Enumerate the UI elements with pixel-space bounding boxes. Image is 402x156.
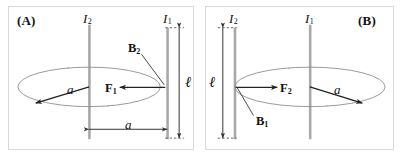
panel-b-label-force-f2: F2 — [280, 82, 292, 96]
panel-b-current-i1-subscript: 1 — [309, 17, 313, 26]
wire-current-i1 — [166, 28, 169, 139]
wire-current-i2 — [88, 25, 91, 139]
panel-b-label-current-i2: I2 — [229, 12, 238, 26]
wire-current-i1 — [309, 25, 312, 139]
panel-b-force-f2-symbol: F — [280, 81, 288, 95]
panel-a-field-b2-subscript: 2 — [136, 47, 140, 56]
panel-a-current-i2-subscript: 2 — [87, 17, 91, 26]
loop-marker-bottom — [326, 105, 328, 107]
loop-marker-bottom — [107, 105, 109, 107]
panel-b-tag: (B) — [358, 14, 376, 27]
panel-a-tag: (A) — [17, 14, 36, 27]
panel-a-label-force-f1: F1 — [105, 82, 117, 96]
panel-b: (B) I2 I1 F2 B1 a ℓ — [205, 6, 394, 150]
panel-a-label-separation-a: a — [125, 118, 132, 131]
panel-b-label-field-b1: B1 — [256, 115, 268, 129]
panel-a-label-length-l: ℓ — [185, 75, 191, 90]
panel-a-graphics — [9, 7, 193, 149]
field-arrow-b1 — [237, 87, 254, 116]
panel-a-force-f1-symbol: F — [105, 81, 113, 95]
panel-a-current-i1-subscript: 1 — [167, 17, 171, 26]
panel-b-current-i2-subscript: 2 — [233, 17, 237, 26]
field-arrow-b2 — [142, 54, 165, 85]
panel-a-label-current-i1: I1 — [163, 12, 172, 26]
radius-arrow-a — [36, 87, 89, 103]
panel-a: (A) I2 I1 B2 F1 a a ℓ — [8, 6, 194, 150]
panel-b-force-f2-subscript: 2 — [288, 87, 292, 96]
panel-a-label-current-i2: I2 — [83, 12, 92, 26]
panel-a-label-radius-a: a — [67, 83, 74, 96]
panel-a-force-f1-subscript: 1 — [113, 87, 117, 96]
loop-marker-top — [67, 67, 69, 69]
panel-b-label-current-i1: I1 — [305, 12, 314, 26]
physics-figure: (A) I2 I1 B2 F1 a a ℓ — [0, 0, 402, 156]
panel-b-label-radius-a: a — [334, 83, 341, 96]
panel-b-graphics — [206, 7, 393, 149]
panel-b-field-b1-subscript: 1 — [264, 120, 268, 129]
panel-a-label-field-b2: B2 — [128, 42, 140, 56]
loop-marker-top — [288, 67, 290, 69]
panel-b-label-length-l: ℓ — [209, 75, 215, 90]
